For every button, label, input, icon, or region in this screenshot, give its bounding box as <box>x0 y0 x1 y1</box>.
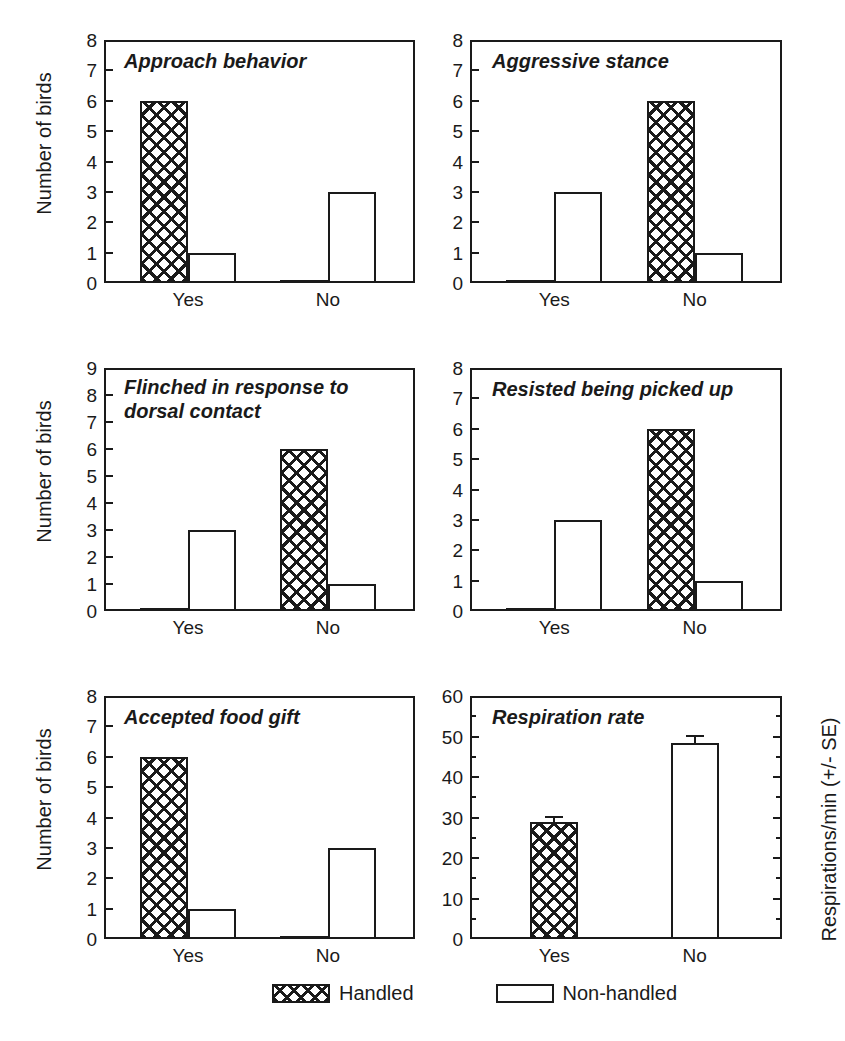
legend-label-non-handled: Non-handled <box>563 982 678 1005</box>
y-right-tick-mark <box>773 736 782 738</box>
y-tick-label: 10 <box>442 889 463 908</box>
x-tick-label: Yes <box>539 618 570 637</box>
y-tick-mark <box>470 100 479 102</box>
bar-handled <box>140 608 188 611</box>
y-tick-label: 8 <box>452 359 463 378</box>
y-tick-label: 9 <box>86 359 97 378</box>
y-tick-mark <box>104 877 113 879</box>
panel-title: Resisted being picked up <box>492 378 733 402</box>
error-bar-cap <box>545 816 563 818</box>
y-right-minor-tick-mark <box>776 715 782 717</box>
y-tick-label: 2 <box>452 213 463 232</box>
y-tick-mark <box>104 421 113 423</box>
y-tick-label: 7 <box>86 717 97 736</box>
y-tick-mark <box>104 908 113 910</box>
y-tick-mark <box>470 252 479 254</box>
y-tick-mark <box>470 428 479 430</box>
y-tick-label: 3 <box>452 182 463 201</box>
legend-entry-handled: Handled <box>272 982 414 1005</box>
y-tick-mark <box>470 489 479 491</box>
y-tick-label: 6 <box>452 419 463 438</box>
bar-handled <box>280 449 328 611</box>
legend-swatch-handled <box>272 984 330 1003</box>
panel-title: Respiration rate <box>492 706 644 730</box>
bar-handled <box>647 101 695 283</box>
y-tick-label: 8 <box>452 31 463 50</box>
plot-frame <box>470 40 782 283</box>
y-tick-mark <box>104 161 113 163</box>
y-tick-mark <box>104 502 113 504</box>
y-axis-title-row3: Number of birds <box>33 720 56 880</box>
x-tick-label: No <box>316 618 340 637</box>
y-tick-label: 1 <box>86 899 97 918</box>
y-right-minor-tick-mark <box>776 918 782 920</box>
y-minor-tick-mark <box>470 796 476 798</box>
y-tick-mark <box>104 556 113 558</box>
y-axis-title-row1: Number of birds <box>33 64 56 224</box>
y-tick-label: 3 <box>86 838 97 857</box>
y-minor-tick-mark <box>470 877 476 879</box>
y-tick-label: 4 <box>452 152 463 171</box>
y-tick-label: 1 <box>86 575 97 594</box>
legend: Handled Non-handled <box>272 982 677 1005</box>
y-tick-label: 8 <box>86 386 97 405</box>
y-tick-label: 8 <box>86 31 97 50</box>
y-tick-label: 3 <box>86 521 97 540</box>
y-tick-label: 6 <box>452 91 463 110</box>
y-tick-mark <box>470 130 479 132</box>
y-tick-mark <box>104 583 113 585</box>
y-tick-label: 1 <box>452 571 463 590</box>
y-tick-mark <box>104 725 113 727</box>
y-tick-label: 7 <box>86 61 97 80</box>
y-tick-label: 40 <box>442 768 463 787</box>
x-tick-label: No <box>682 618 706 637</box>
y-tick-mark <box>104 130 113 132</box>
y-right-tick-mark <box>773 817 782 819</box>
bar-handled <box>506 280 554 283</box>
bar-non-handled <box>554 192 602 283</box>
chart-panel-respiration-rate: Respiration rate 0102030405060YesNo <box>470 696 782 939</box>
figure-root: Approach behavior 012345678YesNo Number … <box>0 0 845 1041</box>
y-tick-mark <box>470 857 479 859</box>
y-tick-label: 0 <box>452 274 463 293</box>
y-tick-label: 20 <box>442 849 463 868</box>
y-tick-mark <box>470 898 479 900</box>
y-minor-tick-mark <box>470 756 476 758</box>
y-tick-mark <box>470 736 479 738</box>
y-minor-tick-mark <box>470 918 476 920</box>
y-tick-label: 6 <box>86 440 97 459</box>
x-tick-label: No <box>682 946 706 965</box>
y-right-minor-tick-mark <box>776 796 782 798</box>
bar-handled <box>140 101 188 283</box>
y-tick-mark <box>104 475 113 477</box>
x-tick-label: Yes <box>172 290 203 309</box>
legend-entry-non-handled: Non-handled <box>496 982 678 1005</box>
y-tick-mark <box>470 519 479 521</box>
error-bar <box>553 818 555 822</box>
bar-non-handled <box>671 743 719 939</box>
x-tick-label: Yes <box>539 290 570 309</box>
y-tick-label: 2 <box>86 548 97 567</box>
y-tick-label: 5 <box>452 450 463 469</box>
y-tick-mark <box>470 69 479 71</box>
y-tick-label: 7 <box>452 389 463 408</box>
y-tick-mark <box>470 776 479 778</box>
y-tick-label: 6 <box>86 747 97 766</box>
y-tick-label: 3 <box>86 182 97 201</box>
plot-frame <box>470 696 782 939</box>
y-tick-label: 0 <box>86 602 97 621</box>
y-minor-tick-mark <box>470 837 476 839</box>
y-tick-label: 0 <box>452 602 463 621</box>
y-tick-mark <box>104 786 113 788</box>
chart-panel-accepted-food-gift: Accepted food gift 012345678YesNo <box>104 696 415 939</box>
y-tick-label: 5 <box>86 467 97 486</box>
panel-title: Approach behavior <box>124 50 306 74</box>
y-tick-label: 8 <box>86 687 97 706</box>
bar-handled <box>280 936 328 939</box>
y-tick-label: 50 <box>442 727 463 746</box>
bar-handled <box>647 429 695 611</box>
bar-non-handled <box>188 909 236 939</box>
bar-non-handled <box>328 192 376 283</box>
y-tick-mark <box>104 847 113 849</box>
y-tick-mark <box>470 549 479 551</box>
